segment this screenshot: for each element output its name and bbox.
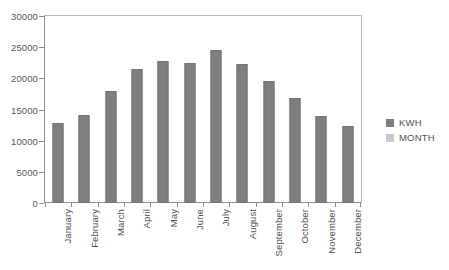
x-axis-labels: JanuaryFebruaryMarchAprilMayJuneJulyAugu… — [45, 209, 361, 267]
x-axis-tick-mark — [45, 203, 46, 207]
bar-slot — [335, 16, 361, 203]
x-axis-tick-mark — [360, 203, 361, 207]
y-axis-tick-mark — [39, 141, 44, 142]
x-axis-label-march: March — [115, 209, 126, 236]
bar — [211, 50, 222, 203]
x-axis-label-september: September — [273, 209, 284, 256]
legend-label: KWH — [399, 117, 422, 128]
bar-slot — [150, 16, 176, 203]
bar — [105, 91, 116, 203]
bar — [158, 61, 169, 203]
x-axis-label-august: August — [247, 209, 258, 239]
x-axis-tick-mark — [203, 203, 204, 207]
bar-slot — [45, 16, 71, 203]
bar-chart: 050001000015000200002500030000 JanuaryFe… — [0, 0, 449, 270]
y-axis-tick-label: 0 — [33, 198, 38, 209]
y-axis-tick-label: 5000 — [16, 166, 38, 177]
chart-legend: KWHMONTH — [386, 116, 435, 146]
x-axis-label-january: January — [62, 209, 73, 244]
bar — [316, 116, 327, 203]
bar — [263, 81, 274, 203]
x-axis-tickmarks — [45, 203, 361, 208]
x-axis-label-july: July — [220, 209, 231, 226]
x-axis-tick-mark — [124, 203, 125, 207]
x-axis-tick-mark — [150, 203, 151, 207]
x-axis-label-february: February — [89, 209, 100, 248]
bar-slot — [308, 16, 334, 203]
x-axis-label-october: October — [299, 209, 310, 244]
x-axis-tick-mark — [98, 203, 99, 207]
y-axis-tick-mark — [39, 110, 44, 111]
bar-slot — [229, 16, 255, 203]
bars-layer — [45, 16, 361, 203]
legend-label: MONTH — [399, 132, 435, 143]
x-axis-label-december: December — [352, 209, 363, 254]
x-axis-label-november: November — [326, 209, 337, 254]
bar-slot — [71, 16, 97, 203]
x-axis-tick-mark — [282, 203, 283, 207]
x-axis-tick-mark — [308, 203, 309, 207]
y-axis-tick-label: 20000 — [11, 73, 38, 84]
bar — [53, 123, 64, 203]
bar — [79, 115, 90, 204]
x-axis-tick-mark — [229, 203, 230, 207]
x-axis-label-may: May — [168, 209, 179, 227]
y-axis-tick-mark — [39, 78, 44, 79]
y-axis: 050001000015000200002500030000 — [0, 0, 44, 204]
x-axis-label-april: April — [141, 209, 152, 229]
x-axis-tick-mark — [177, 203, 178, 207]
y-axis-tick-mark — [39, 203, 44, 204]
bar-slot — [177, 16, 203, 203]
bar — [132, 69, 143, 203]
legend-item-kwh[interactable]: KWH — [386, 116, 435, 129]
x-axis-tick-mark — [335, 203, 336, 207]
y-axis-tick-mark — [39, 47, 44, 48]
y-axis-tick-label: 25000 — [11, 42, 38, 53]
legend-item-month[interactable]: MONTH — [386, 131, 435, 144]
legend-swatch-icon — [386, 119, 394, 127]
bar-slot — [124, 16, 150, 203]
bar-slot — [256, 16, 282, 203]
bar — [342, 126, 353, 203]
y-axis-tick-mark — [39, 172, 44, 173]
x-axis-tick-mark — [256, 203, 257, 207]
bar — [184, 63, 195, 203]
bar — [290, 98, 301, 203]
x-axis-tick-mark — [71, 203, 72, 207]
bar-slot — [203, 16, 229, 203]
y-axis-tick-mark — [39, 16, 44, 17]
bar-slot — [282, 16, 308, 203]
y-axis-tick-label: 30000 — [11, 11, 38, 22]
x-axis-label-june: June — [194, 209, 205, 230]
bar-slot — [98, 16, 124, 203]
legend-swatch-icon — [386, 134, 394, 142]
bar — [237, 64, 248, 203]
y-axis-tick-label: 10000 — [11, 135, 38, 146]
y-axis-tick-label: 15000 — [11, 104, 38, 115]
